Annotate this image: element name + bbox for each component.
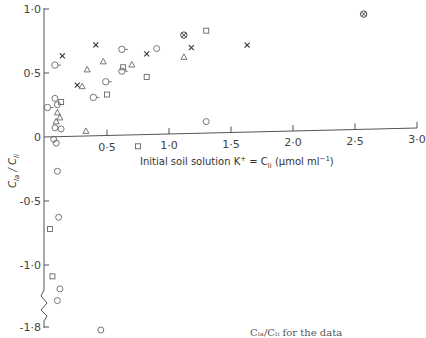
data-point-circle [56,214,62,220]
data-point-circle [58,126,64,132]
axis-ticks: 0·51·01·52·02·53·01·00·50-0·5-1·0-1·8 [20,3,426,334]
data-point-cross [189,45,194,50]
y-tick-label: -1·0 [20,259,41,272]
data-point-circle [52,125,58,131]
data-point-circle-with-tick [119,68,128,74]
data-point-square [47,227,52,232]
data-point-circled-cross [181,32,187,38]
figure-caption-fragment: Cₗₐ/Cₗᵢ for the data [250,327,342,338]
data-point-square [121,65,126,70]
data-point-triangle [83,128,89,134]
data-point-circle-with-tick [103,79,112,85]
data-point-triangle [84,66,90,72]
data-points [44,11,367,333]
data-point-circle [54,298,60,304]
scatter-chart: 0·51·01·52·02·53·01·00·50-0·5-1·0-1·8 In… [0,0,426,338]
data-point-circle [203,119,209,125]
data-point-triangle [100,58,106,64]
data-point-circle [98,327,104,333]
y-tick-label: 0·5 [24,67,42,80]
y-tick-label: -0·5 [20,195,41,208]
data-point-square [204,28,209,33]
y-axis-label: Cla / Cli [7,154,21,188]
data-point-circle-with-tick [44,104,53,110]
data-point-square [144,74,149,79]
data-point-circle [52,95,58,101]
data-point-cross [93,42,98,47]
axes [41,8,417,328]
x-tick-label: 0·5 [98,141,116,154]
y-tick-label: -1·8 [20,321,41,334]
data-point-cross [60,53,65,58]
data-point-triangle [53,118,59,124]
data-point-circled-cross [360,11,366,17]
data-point-triangle [129,62,135,68]
data-point-cross [245,43,250,48]
data-point-square [105,92,110,97]
data-point-circle-with-tick [119,46,128,52]
data-point-circle [54,168,60,174]
data-point-triangle [79,83,85,89]
data-point-cross [144,51,149,56]
x-tick-label: 1·0 [160,139,178,152]
data-point-circle [154,46,160,52]
data-point-cross [75,83,80,88]
data-point-circle-with-tick [90,94,99,100]
x-tick-label: 3·0 [408,133,426,146]
y-axis-break [41,290,47,328]
y-tick-label: 1·0 [24,3,42,16]
x-tick-label: 2·5 [346,135,364,148]
data-point-triangle [54,109,60,115]
y-tick-label: 0 [34,131,41,144]
data-point-circle-with-tick [52,62,61,68]
data-point-circle [57,286,63,292]
data-point-square [136,144,141,149]
data-point-square [50,274,55,279]
data-point-triangle [181,54,187,60]
x-tick-label: 1·5 [222,138,240,151]
x-axis-label: Initial soil solution K+ = Cli (μmol ml−… [140,155,334,170]
x-tick-label: 2·0 [284,136,302,149]
